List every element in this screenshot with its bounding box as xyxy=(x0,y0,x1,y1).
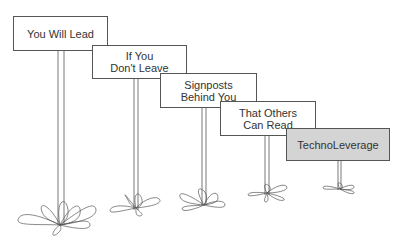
sign-5-label: TechnoLeverage xyxy=(297,139,378,151)
sign-4-label: That Others Can Read xyxy=(239,107,297,131)
roots xyxy=(18,183,354,236)
sign-3-label: Signposts Behind You xyxy=(181,79,237,103)
sign-1-label: You Will Lead xyxy=(27,28,94,40)
sign-5-highlighted: TechnoLeverage xyxy=(286,128,390,161)
sign-2-label: If You Don't Leave xyxy=(110,50,168,74)
